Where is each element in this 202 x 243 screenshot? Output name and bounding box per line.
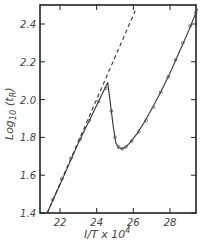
y-tick-label: 2.2	[20, 57, 36, 68]
y-tick-label: 2.0	[20, 95, 36, 106]
x-axis-title: I/T x 104	[84, 226, 130, 241]
y-tick-label: 1.6	[20, 170, 36, 181]
y-tick-label: 1.4	[20, 208, 36, 219]
x-tick-label: 22	[54, 217, 67, 228]
x-tick-label: 28	[164, 217, 177, 228]
y-tick-label: 1.8	[20, 132, 36, 143]
y-axis-title: Log10(tR)	[3, 88, 18, 141]
chart: 22242628 1.41.61.82.02.22.4 I/T x 104 Lo…	[0, 0, 202, 243]
x-tick-label: 24	[90, 217, 103, 228]
y-axis-ticks: 1.41.61.82.02.22.4	[20, 19, 196, 219]
plot-frame	[40, 5, 196, 213]
series-layer	[47, 9, 197, 213]
x-axis-ticks: 22242628	[54, 5, 177, 228]
y-tick-label: 2.4	[20, 19, 36, 30]
